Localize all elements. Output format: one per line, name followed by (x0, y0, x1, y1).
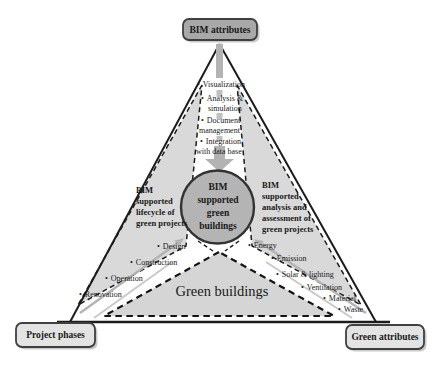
left-wedge-label-line: lifecycle of (136, 207, 175, 217)
left-wedge-label-line: BIM (136, 185, 153, 195)
circle-label-line: green (207, 208, 230, 218)
bim-capability-item-line2: with data base (196, 147, 242, 156)
green-buildings-label: Green buildings (175, 283, 268, 299)
right-wedge-label-line: assessment of (262, 213, 311, 223)
green-attribute-item: •Waste (338, 305, 364, 314)
green-attribute-item: •Emission (271, 254, 307, 263)
green-attribute-item: •Material (323, 294, 357, 303)
bim-capability-item: •Integration (200, 137, 241, 146)
right-wedge-label-line: supported (262, 191, 299, 201)
circle-label-line: buildings (199, 221, 237, 231)
left-wedge-label-line: green projects (136, 218, 188, 228)
bim-capability-item-line2: simulation (208, 104, 242, 113)
bim-capability-item: •Visualization (197, 80, 245, 89)
project-phase-item: •Operation (105, 274, 143, 283)
green-attribute-item: •Ventilation (301, 283, 342, 292)
left-wedge-label-line: supported (136, 196, 173, 206)
circle-label-line: BIM (209, 182, 228, 192)
bim-capability-item-line2: management (199, 126, 241, 135)
green-attributes-box-label: Green attributes (351, 332, 418, 342)
bim-capability-item: •Document (201, 116, 241, 125)
project-phases-box-label: Project phases (26, 330, 85, 340)
top-arrow-shaft (216, 44, 223, 78)
right-wedge-label-line: green projects (262, 224, 314, 234)
circle-label-line: supported (197, 195, 239, 205)
bim-attributes-box-label: BIM attributes (190, 25, 251, 35)
bim-capability-item: •Analysis & (201, 94, 244, 103)
right-wedge-label-line: BIM (262, 180, 279, 190)
right-wedge-label-line: analysis and (262, 202, 307, 212)
green-attribute-item: •Solar & lighting (276, 270, 334, 279)
project-phase-item: •Renovation (79, 290, 122, 299)
project-phase-item: •Construction (130, 258, 177, 267)
bim-green-building-triangle-diagram: BIM supported green buildings •Visualiza… (0, 0, 443, 368)
diagram-canvas: BIM supported green buildings •Visualiza… (0, 0, 443, 368)
